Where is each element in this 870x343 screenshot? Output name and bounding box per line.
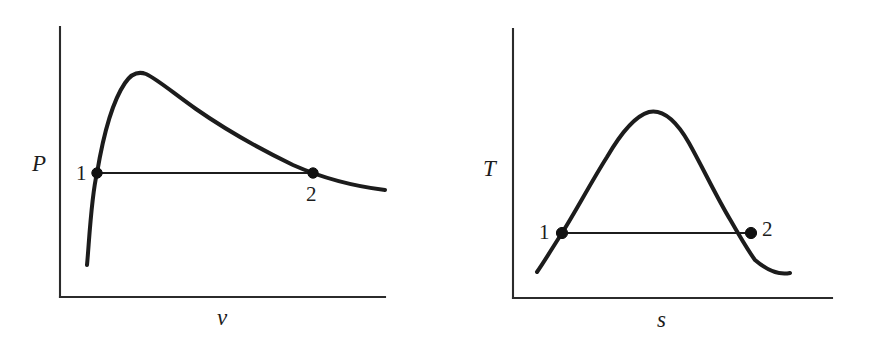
ts-state-point-2 [745, 227, 756, 238]
ts-saturation-dome-curve [537, 112, 790, 274]
ts-x-axis-label: s [657, 308, 666, 331]
pv-x-axis-label: v [217, 306, 227, 329]
ts-state-label-2: 2 [762, 219, 773, 240]
ts-y-axis-label: T [483, 157, 496, 180]
ts-diagram-svg [435, 0, 870, 343]
ts-state-point-1 [556, 227, 567, 238]
pv-state-label-1: 1 [76, 163, 87, 184]
pv-diagram-svg [0, 0, 435, 343]
pv-state-point-1 [92, 168, 102, 178]
ts-diagram-panel: T s 1 2 [435, 0, 870, 343]
ts-state-label-1: 1 [539, 222, 550, 243]
pv-state-label-2: 2 [306, 184, 317, 205]
pv-state-point-2 [308, 168, 318, 178]
thermodynamic-diagrams-figure: P v 1 2 T s 1 2 [0, 0, 870, 343]
pv-y-axis-label: P [32, 152, 46, 175]
pv-diagram-panel: P v 1 2 [0, 0, 435, 343]
pv-saturation-dome-curve [87, 73, 385, 265]
